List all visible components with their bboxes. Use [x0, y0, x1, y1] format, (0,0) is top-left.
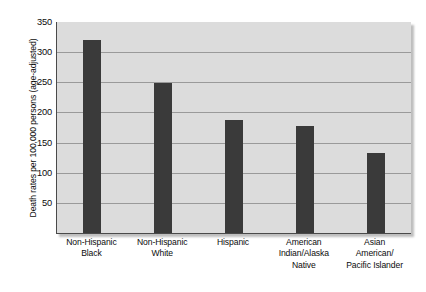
x-category-label: Hispanic: [198, 237, 269, 248]
bar-series: [57, 22, 411, 233]
y-tick-label-300: 300: [37, 47, 52, 57]
bar: [367, 153, 385, 233]
x-category-label-line: Hispanic: [198, 237, 269, 248]
x-category-label-line: White: [127, 248, 198, 259]
x-axis-category-labels: Non-HispanicBlackNon-HispanicWhiteHispan…: [56, 237, 410, 292]
bar: [225, 120, 243, 233]
x-category-label-line: Non-Hispanic: [127, 237, 198, 248]
y-tick-label-350: 350: [37, 17, 52, 27]
bar: [296, 126, 314, 233]
y-tick-label-50: 50: [42, 198, 52, 208]
x-category-label-line: Native: [268, 260, 339, 271]
bar-chart-figure: Death rates per 100,000 persons (age-adj…: [0, 0, 426, 292]
x-category-label: AmericanIndian/AlaskaNative: [268, 237, 339, 271]
x-category-label-line: Indian/Alaska: [268, 248, 339, 259]
x-category-label-line: Pacific Islander: [339, 260, 410, 271]
x-category-label: Non-HispanicBlack: [56, 237, 127, 260]
x-category-label-line: Asian: [339, 237, 410, 248]
x-category-label-line: American/: [339, 248, 410, 259]
y-tick-label-150: 150: [37, 138, 52, 148]
x-category-label-line: American: [268, 237, 339, 248]
x-category-label-line: Non-Hispanic: [56, 237, 127, 248]
y-tick-label-250: 250: [37, 77, 52, 87]
y-axis-tick-labels: 50100150200250300350: [22, 22, 55, 233]
bar: [83, 40, 101, 233]
y-tick-label-100: 100: [37, 168, 52, 178]
x-category-label-line: Black: [56, 248, 127, 259]
x-category-label: AsianAmerican/Pacific Islander: [339, 237, 410, 271]
bar: [154, 83, 172, 233]
y-tick-label-200: 200: [37, 107, 52, 117]
x-category-label: Non-HispanicWhite: [127, 237, 198, 260]
plot-area: [56, 22, 411, 234]
